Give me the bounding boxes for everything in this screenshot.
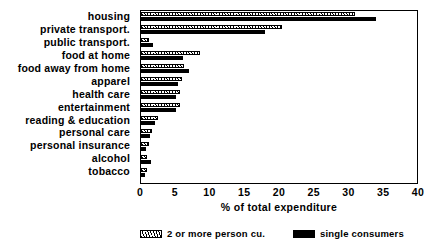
category-label: personal care (0, 126, 134, 139)
bar-row (141, 50, 417, 63)
bar-single-consumer (141, 82, 178, 86)
bar-row (141, 63, 417, 76)
category-label: food at home (0, 49, 134, 62)
bar-single-consumer (141, 121, 155, 125)
category-label: food away from home (0, 62, 134, 75)
category-label: personal insurance (0, 139, 134, 152)
bar-row (141, 76, 417, 89)
bar-row (141, 89, 417, 102)
legend-label: single consumers (320, 228, 404, 239)
bar-single-consumer (141, 147, 146, 151)
bar-multi-person (141, 155, 147, 159)
bar-single-consumer (141, 30, 265, 34)
x-tick-label: 40 (412, 186, 424, 198)
bar-single-consumer (141, 173, 145, 177)
category-label: private transport. (0, 23, 134, 36)
bar-row (141, 102, 417, 115)
category-label: tobacco (0, 165, 134, 178)
category-label: housing (0, 10, 134, 23)
bar-single-consumer (141, 43, 153, 47)
bar-multi-person (141, 12, 355, 16)
category-label: apparel (0, 75, 134, 88)
bar-single-consumer (141, 69, 189, 73)
category-label: reading & education (0, 114, 134, 127)
plot-area (140, 10, 418, 184)
category-label: alcohol (0, 152, 134, 165)
bar-multi-person (141, 90, 180, 94)
bar-row (141, 37, 417, 50)
bar-single-consumer (141, 160, 151, 164)
bar-multi-person (141, 64, 184, 68)
x-tick-label: 35 (377, 186, 389, 198)
bar-single-consumer (141, 95, 176, 99)
y-axis-category-labels: housingprivate transport.public transpor… (0, 10, 134, 178)
x-axis-title: % of total expenditure (140, 201, 418, 213)
legend-item: 2 or more person cu. (140, 228, 265, 239)
bar-multi-person (141, 116, 158, 120)
bar-multi-person (141, 38, 149, 42)
category-label: health care (0, 88, 134, 101)
bar-row (141, 166, 417, 179)
bar-multi-person (141, 103, 180, 107)
x-tick-label: 30 (342, 186, 354, 198)
x-tick-label: 15 (238, 186, 250, 198)
legend-swatch-hatched-icon (140, 230, 162, 238)
bar-multi-person (141, 142, 149, 146)
legend-item: single consumers (293, 228, 404, 239)
bar-single-consumer (141, 134, 150, 138)
x-tick-label: 20 (273, 186, 285, 198)
bar-multi-person (141, 77, 182, 81)
bar-single-consumer (141, 108, 176, 112)
bar-single-consumer (141, 17, 376, 21)
bar-single-consumer (141, 56, 183, 60)
legend-label: 2 or more person cu. (167, 228, 265, 239)
category-label: public transport. (0, 36, 134, 49)
x-tick-label: 25 (308, 186, 320, 198)
bar-row (141, 127, 417, 140)
legend-swatch-solid-icon (293, 230, 315, 238)
x-axis-tick-labels: 0510152025303540 (140, 186, 418, 199)
bar-row (141, 115, 417, 128)
bar-row (141, 153, 417, 166)
chart-legend: 2 or more person cu.single consumers (140, 228, 430, 239)
bar-row (141, 140, 417, 153)
bar-row (141, 24, 417, 37)
bar-multi-person (141, 25, 282, 29)
bar-group-container (141, 11, 417, 183)
expenditure-bar-chart: housingprivate transport.public transpor… (0, 0, 431, 248)
x-tick-label: 5 (172, 186, 178, 198)
bar-multi-person (141, 168, 147, 172)
x-tick-label: 10 (203, 186, 215, 198)
category-label: entertainment (0, 101, 134, 114)
bar-multi-person (141, 129, 152, 133)
x-tick-label: 0 (137, 186, 143, 198)
bar-row (141, 11, 417, 24)
bar-multi-person (141, 51, 200, 55)
